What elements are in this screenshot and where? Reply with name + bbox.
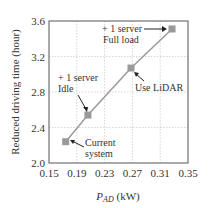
x-tick-label: 0.19 [67,167,87,179]
svg-text:Use LiDAR: Use LiDAR [135,82,183,93]
svg-text:+ 1 server: + 1 server [102,23,143,34]
svg-text:Idle: Idle [58,83,74,94]
x-axis-ticks: 0.150.190.230.270.310.35 [39,167,198,179]
svg-text:+ 1 server: + 1 server [58,72,99,83]
x-tick-label: 0.31 [151,167,170,179]
y-axis-ticks: 2.02.42.83.23.6 [31,15,45,169]
square-marker-icon [169,25,176,32]
square-marker-icon [62,138,69,145]
y-tick-label: 3.6 [31,15,45,27]
annotation-server-idle: + 1 server Idle [58,72,99,112]
x-axis-label: PAD (kW) [95,190,140,204]
y-tick-label: 2.4 [31,122,45,134]
annotation-use-lidar: Use LiDAR [134,72,183,93]
x-tick-label: 0.35 [178,167,198,179]
y-tick-label: 2.8 [31,86,45,98]
svg-text:Full load: Full load [103,34,139,45]
square-marker-icon [84,112,91,119]
y-axis-label: Reduced driving time (hour) [9,29,22,155]
svg-text:system: system [85,148,113,159]
annotation-server-full-load: + 1 server Full load [102,23,167,45]
x-tick-label: 0.23 [95,167,115,179]
y-tick-label: 3.2 [31,51,45,63]
y-tick-label: 2.0 [31,157,45,169]
square-marker-icon [128,65,135,72]
line-chart: 0.150.190.230.270.310.35 2.02.42.83.23.6… [0,0,211,208]
arrowhead-icon [83,107,88,112]
svg-text:Current: Current [85,137,116,148]
x-tick-label: 0.27 [123,167,143,179]
arrow-icon [78,95,86,109]
arrowhead-icon [162,26,167,32]
